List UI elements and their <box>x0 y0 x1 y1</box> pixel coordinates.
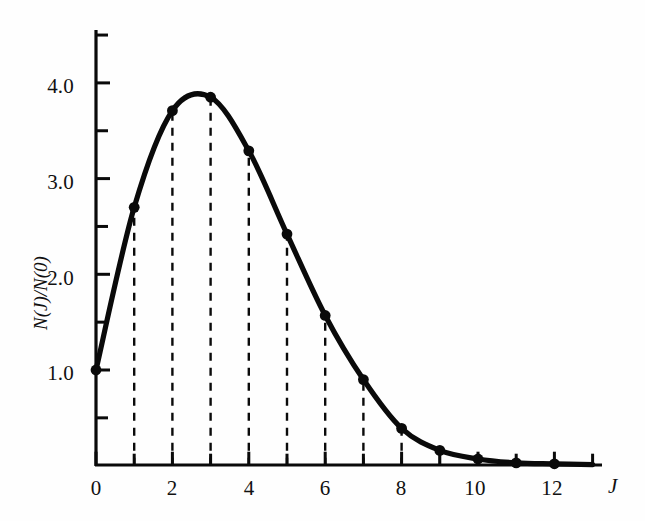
data-point <box>282 229 293 240</box>
data-point <box>549 458 560 469</box>
data-curve <box>96 94 593 465</box>
y-tick-label-3: 3.0 <box>22 170 74 195</box>
x-axis-label: J <box>608 474 617 499</box>
x-tick-label-6: 6 <box>305 476 345 501</box>
data-point <box>167 105 178 116</box>
axis-lines <box>95 30 602 466</box>
drop-lines <box>134 97 440 465</box>
y-tick-label-4: 4.0 <box>22 74 74 99</box>
data-point <box>243 145 254 156</box>
chart-plot-area <box>0 0 645 521</box>
data-point <box>320 310 331 321</box>
x-tick-label-12: 12 <box>532 476 572 501</box>
x-tick-label-4: 4 <box>229 476 269 501</box>
data-point <box>91 365 102 376</box>
y-axis-label: N(J)/N(0) <box>30 238 52 348</box>
x-tick-label-0: 0 <box>76 476 116 501</box>
x-tick-label-10: 10 <box>455 476 495 501</box>
data-point <box>358 374 369 385</box>
data-point <box>473 454 484 465</box>
y-tick-label-1: 1.0 <box>22 361 74 386</box>
data-point <box>511 457 522 468</box>
data-point <box>396 423 407 434</box>
data-point <box>129 202 140 213</box>
x-tick-label-2: 2 <box>152 476 192 501</box>
data-point <box>434 445 445 456</box>
x-tick-label-8: 8 <box>381 476 421 501</box>
data-point-markers <box>91 92 560 469</box>
data-point <box>205 92 216 103</box>
figure-container: 4.0 3.0 2.0 1.0 0 2 4 6 8 10 12 J N(J)/N… <box>0 0 645 521</box>
